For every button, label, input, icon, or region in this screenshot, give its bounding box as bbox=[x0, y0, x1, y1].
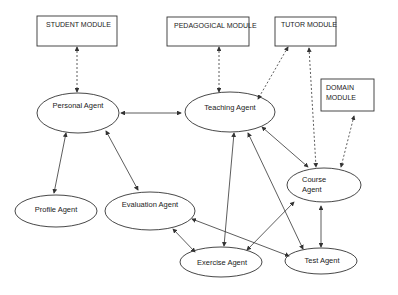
teaching-agent-ellipse bbox=[185, 92, 275, 132]
domain-module-label-2: MODULE bbox=[326, 93, 356, 102]
course-agent-label-1: Course bbox=[302, 175, 332, 184]
test-agent-label: Test Agent bbox=[290, 256, 354, 265]
student-module-label: STUDENT MODULE bbox=[46, 20, 111, 29]
exercise-agent-label: Exercise Agent bbox=[184, 258, 260, 267]
teaching-agent-label: Teaching Agent bbox=[190, 103, 270, 112]
diagram-canvas bbox=[0, 0, 398, 295]
profile-agent-label: Profile Agent bbox=[18, 205, 94, 214]
evaluation-agent-label: Evaluation Agent bbox=[110, 200, 190, 209]
pedagogical-module-label: PEDAGOGICAL MODULE bbox=[174, 21, 257, 30]
personal-agent-ellipse bbox=[37, 93, 119, 133]
domain-module-label-1: DOMAIN bbox=[326, 83, 354, 92]
course-agent-label-2: Agent bbox=[302, 185, 332, 194]
personal-agent-label: Personal Agent bbox=[40, 101, 116, 110]
tutor-module-label: TUTOR MODULE bbox=[281, 20, 337, 29]
evaluation-agent-ellipse bbox=[105, 192, 195, 230]
